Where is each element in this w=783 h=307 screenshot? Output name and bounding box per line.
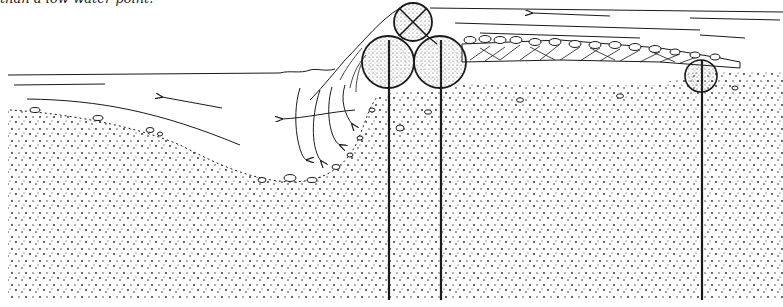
spray-lines <box>340 48 366 92</box>
eddy-arrow-4 <box>296 88 307 160</box>
eddy-arrow-2 <box>313 90 321 161</box>
flow-arrow-upper <box>532 13 610 16</box>
eddy-arrow-5 <box>343 85 352 124</box>
eddy-arrow-1 <box>282 110 355 119</box>
right-small-log <box>685 60 717 92</box>
right-base-log <box>414 36 466 88</box>
left-base-log <box>362 36 414 88</box>
diagram-canvas <box>0 0 783 307</box>
flow-arrow-lower <box>162 97 222 108</box>
eddy-arrow-3 <box>329 87 340 145</box>
bank-line <box>430 8 783 12</box>
streambed <box>8 70 783 300</box>
